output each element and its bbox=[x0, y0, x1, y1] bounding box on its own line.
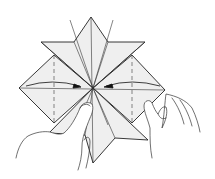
diagram-canvas bbox=[0, 0, 215, 179]
right-hand bbox=[144, 94, 200, 158]
origami-diagram: Square base unfolded into star shape; bo… bbox=[0, 0, 215, 179]
